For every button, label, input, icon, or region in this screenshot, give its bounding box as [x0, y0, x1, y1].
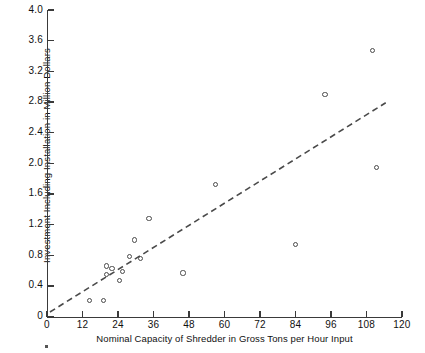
x-tick-label: 0	[27, 319, 67, 330]
y-tick	[48, 193, 54, 194]
data-point	[370, 48, 375, 53]
x-tick-label: 84	[276, 319, 316, 330]
x-tick-label: 36	[134, 319, 174, 330]
x-tick	[46, 311, 47, 317]
x-tick	[295, 311, 296, 317]
y-tick	[48, 40, 54, 41]
y-tick-label: 2.8	[1, 95, 43, 106]
x-tick	[330, 311, 331, 317]
y-tick-label: 1.6	[1, 187, 43, 198]
x-tick	[188, 311, 189, 317]
data-point	[109, 266, 114, 271]
data-point	[293, 242, 298, 247]
y-tick-label: 0.4	[1, 279, 43, 290]
y-tick-label: 3.2	[1, 65, 43, 76]
print-artifact-speck	[45, 345, 48, 348]
x-tick	[224, 311, 225, 317]
y-tick	[48, 132, 54, 133]
data-point	[322, 92, 327, 97]
y-tick	[48, 316, 54, 317]
data-point	[180, 270, 185, 275]
y-tick	[48, 101, 54, 102]
x-tick-label: 108	[347, 319, 387, 330]
y-tick	[48, 9, 54, 10]
y-tick	[48, 255, 54, 256]
x-tick-label: 72	[240, 319, 280, 330]
y-tick	[48, 285, 54, 286]
x-tick-label: 24	[98, 319, 138, 330]
data-point	[87, 298, 92, 303]
y-axis-line	[47, 10, 48, 318]
x-axis-title: Nominal Capacity of Shredder in Gross To…	[47, 333, 402, 344]
x-tick-label: 96	[311, 319, 351, 330]
trend-line	[0, 0, 425, 353]
x-tick	[366, 311, 367, 317]
y-tick	[48, 224, 54, 225]
y-tick	[48, 163, 54, 164]
x-tick-label: 12	[63, 319, 103, 330]
data-point	[146, 216, 151, 221]
data-point	[138, 256, 143, 261]
y-tick-label: 2.0	[1, 157, 43, 168]
scatter-chart: Investment Including Installation in Mil…	[0, 0, 425, 353]
data-point	[104, 272, 109, 277]
y-tick-label: 2.4	[1, 126, 43, 137]
x-tick	[82, 311, 83, 317]
x-tick-label: 60	[205, 319, 245, 330]
y-tick-label: 1.2	[1, 218, 43, 229]
y-tick-label: 4.0	[1, 4, 43, 15]
data-point	[104, 263, 109, 268]
y-tick-label: 0.8	[1, 249, 43, 260]
x-tick	[401, 311, 402, 317]
data-point	[374, 165, 379, 170]
data-point	[127, 254, 132, 259]
y-tick-label: 3.6	[1, 34, 43, 45]
x-tick	[153, 311, 154, 317]
data-point	[101, 298, 106, 303]
x-tick-label: 48	[169, 319, 209, 330]
x-tick-label: 120	[382, 319, 422, 330]
x-tick	[259, 311, 260, 317]
data-point	[213, 182, 218, 187]
data-point	[120, 269, 125, 274]
data-point	[132, 237, 137, 242]
y-tick	[48, 71, 54, 72]
x-tick	[117, 311, 118, 317]
data-point	[117, 278, 122, 283]
